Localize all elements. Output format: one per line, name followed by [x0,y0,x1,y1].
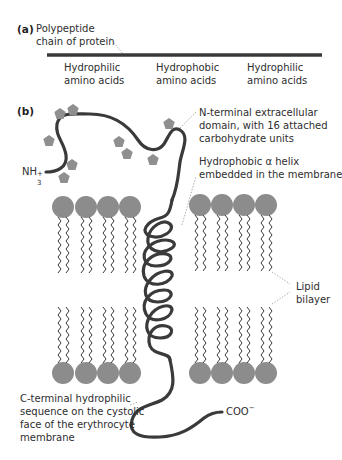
n-terminus-subscript: 3 [37,177,41,190]
panel-b-label: (b) [17,105,34,117]
c-terminus-text: COO [226,406,249,417]
segment-3-line2: amino acids [247,75,307,88]
polypeptide-label-line2: chain of protein [36,36,115,49]
polypeptide-label-line1: Polypeptide [36,23,95,36]
segment-2-line2: amino acids [156,75,216,88]
c-terminal-annotation-4: membrane [20,432,75,445]
c-terminal-annotation-1: C-terminal hydrophilic [20,393,131,406]
segment-1-line1: Hydrophilic [64,62,120,75]
helix-annotation-2: embedded in the membrane [199,169,342,182]
n-domain-annotation-3: carbohydrate units [199,133,294,146]
bilayer-annotation-2: bilayer [296,294,330,307]
n-terminal-chain [46,114,185,200]
lipid-bilayer-left [52,196,141,384]
panel-a-label: (a) [17,23,34,35]
n-terminus-text: NH [22,166,37,177]
n-terminus-label: NH+3 [22,166,43,179]
bilayer-annotation-1: Lipid [296,281,320,294]
c-terminal-annotation-2: sequence on the cystolic [20,406,144,419]
c-terminus-label: COO− [226,406,255,420]
c-terminal-annotation-3: face of the erythrocyte [20,419,135,432]
n-domain-annotation-1: N-terminal extracellular [199,107,318,120]
bilayer-leader-top [272,272,290,284]
helix-annotation-1: Hydrophobic α helix [199,156,299,169]
segment-2-line1: Hydrophobic [156,62,219,75]
c-terminus-charge: − [249,404,255,412]
segment-1-line2: amino acids [64,75,124,88]
bilayer-leader-bottom [272,292,290,304]
c-terminal-leader [130,402,138,405]
lipid-bilayer-right [189,194,277,384]
n-domain-annotation-2: domain, with 16 attached [199,120,328,133]
n-domain-leader [180,112,196,128]
segment-3-line1: Hydrophilic [247,62,303,75]
alpha-helix [143,200,174,360]
